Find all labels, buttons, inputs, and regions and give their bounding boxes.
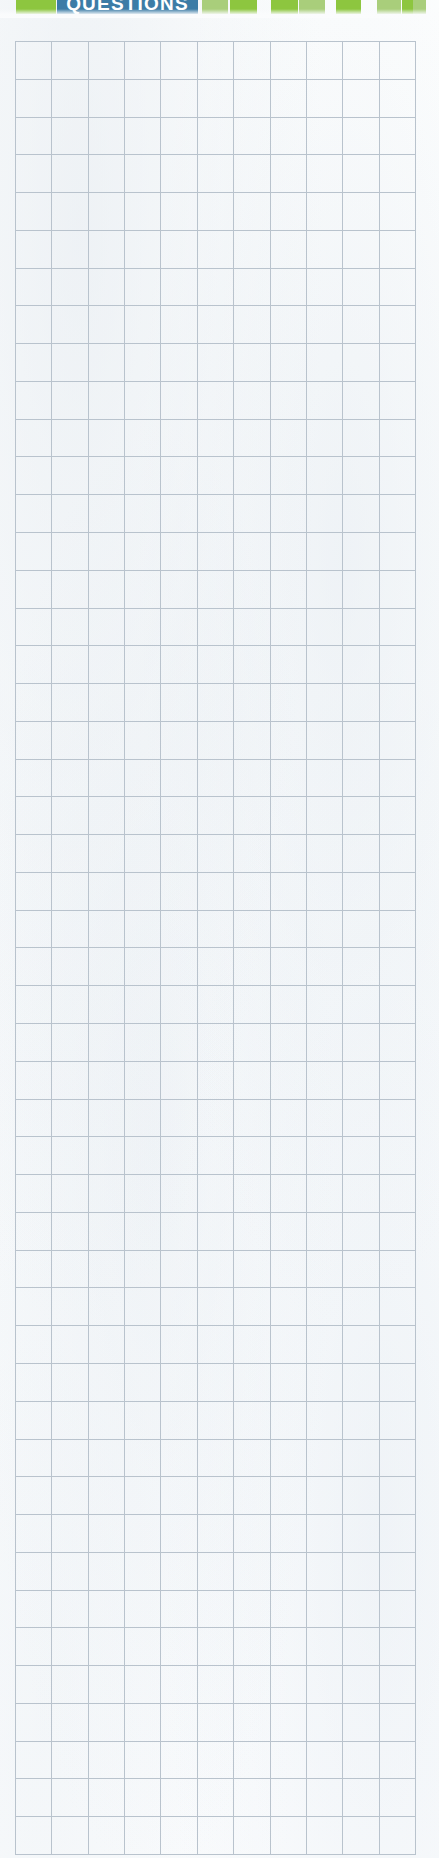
grid-cell[interactable]	[343, 571, 379, 609]
grid-cell[interactable]	[234, 911, 270, 949]
grid-cell[interactable]	[343, 155, 379, 193]
grid-cell[interactable]	[52, 571, 88, 609]
grid-cell[interactable]	[343, 344, 379, 382]
grid-cell[interactable]	[198, 1062, 234, 1100]
grid-cell[interactable]	[16, 722, 52, 760]
grid-cell[interactable]	[52, 1704, 88, 1742]
grid-cell[interactable]	[271, 1402, 307, 1440]
grid-cell[interactable]	[52, 1213, 88, 1251]
grid-cell[interactable]	[52, 1024, 88, 1062]
grid-cell[interactable]	[380, 1175, 416, 1213]
grid-cell[interactable]	[307, 42, 343, 80]
grid-cell[interactable]	[89, 1742, 125, 1780]
grid-cell[interactable]	[307, 1704, 343, 1742]
grid-cell[interactable]	[16, 155, 52, 193]
grid-cell[interactable]	[89, 1515, 125, 1553]
grid-cell[interactable]	[343, 609, 379, 647]
grid-cell[interactable]	[234, 1100, 270, 1138]
grid-cell[interactable]	[307, 1591, 343, 1629]
grid-cell[interactable]	[125, 269, 161, 307]
grid-cell[interactable]	[234, 760, 270, 798]
grid-cell[interactable]	[161, 684, 197, 722]
grid-cell[interactable]	[16, 1326, 52, 1364]
grid-cell[interactable]	[161, 80, 197, 118]
grid-cell[interactable]	[161, 911, 197, 949]
grid-cell[interactable]	[161, 155, 197, 193]
grid-cell[interactable]	[380, 457, 416, 495]
grid-cell[interactable]	[16, 1440, 52, 1478]
grid-cell[interactable]	[16, 873, 52, 911]
grid-cell[interactable]	[380, 911, 416, 949]
grid-cell[interactable]	[52, 1326, 88, 1364]
grid-cell[interactable]	[125, 1440, 161, 1478]
grid-cell[interactable]	[198, 193, 234, 231]
grid-cell[interactable]	[198, 1591, 234, 1629]
grid-cell[interactable]	[271, 80, 307, 118]
grid-cell[interactable]	[307, 155, 343, 193]
grid-cell[interactable]	[16, 533, 52, 571]
grid-cell[interactable]	[307, 118, 343, 156]
grid-cell[interactable]	[307, 1137, 343, 1175]
grid-cell[interactable]	[161, 835, 197, 873]
grid-cell[interactable]	[198, 1704, 234, 1742]
grid-cell[interactable]	[307, 797, 343, 835]
grid-cell[interactable]	[271, 457, 307, 495]
grid-cell[interactable]	[234, 1402, 270, 1440]
grid-cell[interactable]	[380, 835, 416, 873]
grid-cell[interactable]	[307, 1628, 343, 1666]
grid-cell[interactable]	[16, 1704, 52, 1742]
grid-cell[interactable]	[16, 1742, 52, 1780]
grid-cell[interactable]	[161, 609, 197, 647]
grid-cell[interactable]	[89, 1364, 125, 1402]
grid-cell[interactable]	[125, 118, 161, 156]
grid-cell[interactable]	[125, 986, 161, 1024]
grid-cell[interactable]	[271, 646, 307, 684]
grid-cell[interactable]	[198, 1628, 234, 1666]
grid-cell[interactable]	[198, 1515, 234, 1553]
grid-cell[interactable]	[380, 344, 416, 382]
grid-cell[interactable]	[234, 495, 270, 533]
grid-cell[interactable]	[16, 42, 52, 80]
grid-cell[interactable]	[380, 797, 416, 835]
grid-cell[interactable]	[198, 609, 234, 647]
grid-cell[interactable]	[271, 495, 307, 533]
grid-cell[interactable]	[307, 269, 343, 307]
grid-cell[interactable]	[16, 1364, 52, 1402]
grid-cell[interactable]	[52, 231, 88, 269]
grid-cell[interactable]	[89, 269, 125, 307]
grid-cell[interactable]	[307, 1175, 343, 1213]
grid-cell[interactable]	[343, 911, 379, 949]
grid-cell[interactable]	[380, 1326, 416, 1364]
grid-cell[interactable]	[343, 646, 379, 684]
grid-cell[interactable]	[89, 1288, 125, 1326]
grid-cell[interactable]	[198, 1779, 234, 1817]
grid-cell[interactable]	[271, 1100, 307, 1138]
grid-cell[interactable]	[89, 1175, 125, 1213]
grid-cell[interactable]	[52, 1591, 88, 1629]
grid-cell[interactable]	[380, 42, 416, 80]
grid-cell[interactable]	[343, 1251, 379, 1289]
grid-cell[interactable]	[89, 646, 125, 684]
grid-cell[interactable]	[380, 1213, 416, 1251]
grid-cell[interactable]	[125, 495, 161, 533]
grid-cell[interactable]	[307, 1100, 343, 1138]
grid-cell[interactable]	[52, 1515, 88, 1553]
grid-cell[interactable]	[16, 797, 52, 835]
grid-cell[interactable]	[89, 1440, 125, 1478]
grid-cell[interactable]	[52, 80, 88, 118]
grid-cell[interactable]	[198, 1100, 234, 1138]
grid-cell[interactable]	[234, 571, 270, 609]
grid-cell[interactable]	[343, 1515, 379, 1553]
grid-cell[interactable]	[271, 1704, 307, 1742]
grid-cell[interactable]	[343, 1666, 379, 1704]
grid-cell[interactable]	[380, 1515, 416, 1553]
grid-cell[interactable]	[198, 571, 234, 609]
grid-cell[interactable]	[16, 1288, 52, 1326]
grid-cell[interactable]	[125, 1024, 161, 1062]
grid-cell[interactable]	[52, 1402, 88, 1440]
grid-cell[interactable]	[343, 948, 379, 986]
grid-cell[interactable]	[161, 797, 197, 835]
grid-cell[interactable]	[89, 1062, 125, 1100]
grid-cell[interactable]	[307, 986, 343, 1024]
grid-cell[interactable]	[89, 1024, 125, 1062]
